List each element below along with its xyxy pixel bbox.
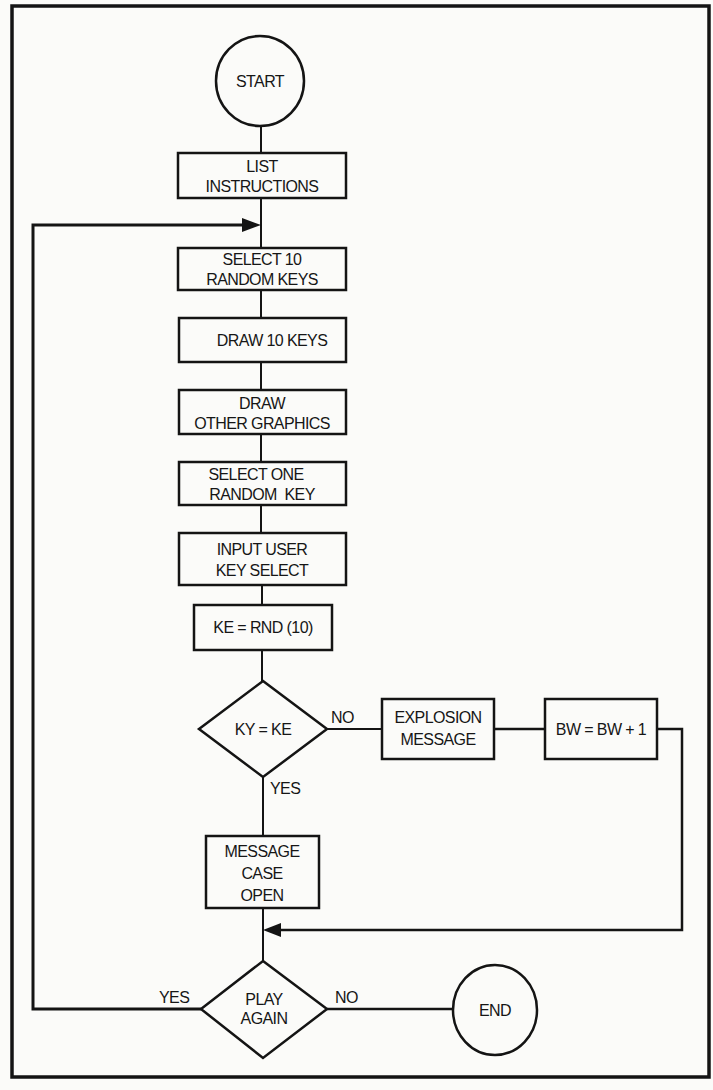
select-10-line1: SELECT 10 [223, 251, 302, 268]
connectors [33, 126, 682, 1009]
draw-10-keys-node: DRAW 10 KEYS [179, 318, 346, 362]
ky-ke-label: KY = KE [235, 721, 291, 738]
end-node: END [453, 965, 537, 1055]
outer-frame [12, 6, 709, 1077]
message-case-line3: OPEN [241, 887, 284, 904]
ke-rnd-label: KE = RND (10) [213, 619, 313, 636]
ky-ke-decision: KY = KE NO YES [199, 681, 354, 797]
start-node: START [216, 36, 304, 126]
explosion-line1: EXPLOSION [394, 709, 481, 726]
play-again-line2: AGAIN [241, 1010, 288, 1027]
arrowhead-right [242, 218, 261, 232]
arrowhead-left [263, 923, 281, 937]
select-one-line2: RANDOM KEY [209, 486, 315, 503]
list-instructions-line2: INSTRUCTIONS [206, 178, 319, 195]
message-case-line1: MESSAGE [225, 843, 300, 860]
start-label: START [236, 73, 285, 90]
end-label: END [479, 1002, 511, 1019]
select-one-node: SELECT ONE RANDOM KEY [179, 462, 346, 505]
explosion-message-node: EXPLOSION MESSAGE [382, 699, 494, 759]
draw-other-line1: DRAW [239, 395, 286, 412]
input-user-line1: INPUT USER [217, 541, 308, 558]
draw-other-line2: OTHER GRAPHICS [194, 415, 330, 432]
message-case-open-node: MESSAGE CASE OPEN [206, 836, 319, 908]
select-10-line2: RANDOM KEYS [206, 271, 318, 288]
ky-ke-yes-label: YES [270, 780, 300, 797]
bw-increment-label: BW = BW + 1 [556, 721, 647, 738]
input-user-line2: KEY SELECT [216, 562, 309, 579]
play-again-yes-label: YES [159, 989, 189, 1006]
bw-increment-node: BW = BW + 1 [545, 699, 657, 759]
input-user-node: INPUT USER KEY SELECT [179, 533, 346, 585]
flowchart-canvas: START LIST INSTRUCTIONS SELECT 10 RANDOM… [0, 0, 713, 1090]
play-again-line1: PLAY [245, 991, 283, 1008]
draw-other-graphics-node: DRAW OTHER GRAPHICS [179, 390, 346, 434]
list-instructions-line1: LIST [246, 158, 278, 175]
select-one-line1: SELECT ONE [208, 466, 303, 483]
ke-rnd-node: KE = RND (10) [194, 605, 332, 650]
list-instructions-node: LIST INSTRUCTIONS [178, 153, 346, 198]
play-again-no-label: NO [335, 989, 358, 1006]
explosion-line2: MESSAGE [401, 731, 476, 748]
draw-10-keys-label: DRAW 10 KEYS [217, 332, 327, 349]
message-case-line2: CASE [241, 865, 282, 882]
ky-ke-no-label: NO [331, 709, 354, 726]
select-10-node: SELECT 10 RANDOM KEYS [178, 248, 346, 290]
